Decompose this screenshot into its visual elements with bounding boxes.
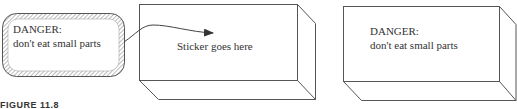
sticker-text-line1: DANGER: [13,23,62,35]
box-before [140,5,316,100]
sticker-text-line2: don't eat small parts [13,37,101,49]
box-after-bottom-edges [344,82,517,101]
box-after-text-line2: don't eat small parts [370,39,458,51]
box-after-text-line1: DANGER: [370,25,419,37]
figure-caption: FIGURE 11.8 [0,101,59,109]
box-after [344,7,517,101]
danger-sticker: DANGER: don't eat small parts [3,14,125,77]
box-before-bottom-edges [140,81,316,100]
box-after-side-edges [500,7,517,101]
figure-canvas: DANGER: don't eat small parts Sticker go… [0,0,517,109]
box-before-side-edges [298,5,316,100]
sticker-placement-label: Sticker goes here [177,40,253,52]
